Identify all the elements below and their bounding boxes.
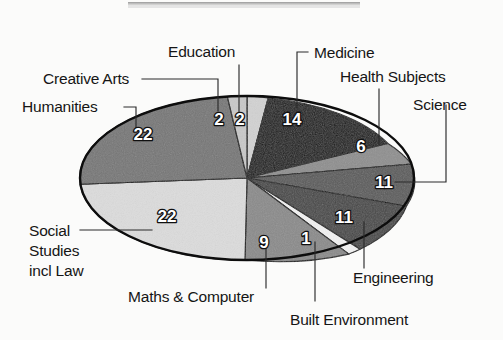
label-maths-computer: Maths & Computer: [128, 288, 254, 305]
label-social-studies-line2: Studies: [29, 242, 80, 259]
value-built-environment: 1: [301, 229, 310, 248]
chart-page: Education Creative Arts Humanities Medic…: [0, 0, 503, 340]
value-social-studies: 22: [158, 207, 177, 226]
value-engineering: 11: [335, 208, 353, 227]
value-maths-computer: 9: [259, 233, 268, 252]
value-medicine: 14: [283, 110, 302, 129]
label-science: Science: [413, 96, 467, 113]
label-engineering: Engineering: [353, 269, 434, 286]
label-education: Education: [168, 43, 235, 60]
label-built-environment: Built Environment: [290, 311, 409, 328]
label-social-studies-line3: incl Law: [29, 262, 84, 279]
value-education: 2: [235, 110, 244, 129]
label-humanities: Humanities: [22, 98, 98, 115]
value-creative-arts: 2: [214, 110, 223, 129]
label-social-studies: Social Studies incl Law: [29, 222, 84, 279]
value-humanities: 22: [134, 125, 153, 144]
label-health-subjects: Health Subjects: [340, 68, 446, 85]
label-medicine: Medicine: [314, 44, 374, 61]
pie-chart: Education Creative Arts Humanities Medic…: [0, 0, 503, 340]
label-social-studies-line1: Social: [29, 222, 70, 239]
label-creative-arts: Creative Arts: [43, 70, 130, 87]
value-health-subjects: 6: [356, 137, 365, 156]
value-science: 11: [375, 173, 393, 192]
